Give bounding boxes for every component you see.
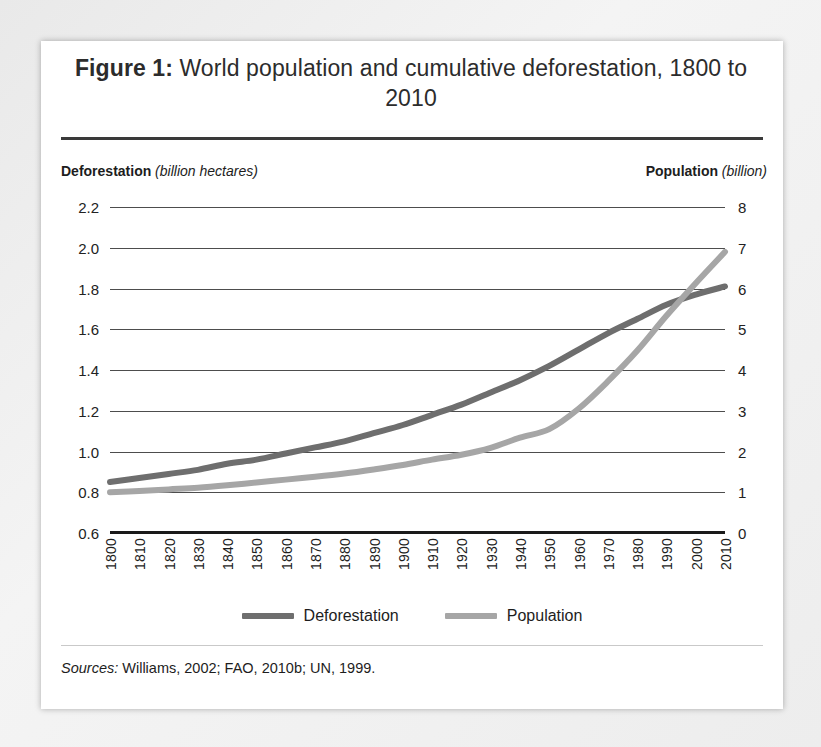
right-axis-tick-label: 2 xyxy=(738,445,746,460)
x-axis-tick-label: 1800 xyxy=(103,538,117,570)
right-axis-tick-label: 8 xyxy=(738,200,746,215)
series-line-deforestation xyxy=(110,286,725,482)
x-axis-tick-label: 1990 xyxy=(659,538,673,570)
x-axis-tick-label: 1970 xyxy=(601,538,615,570)
x-axis-tick-label: 2010 xyxy=(718,538,732,570)
right-axis-tick-label: 0 xyxy=(738,526,746,541)
x-axis-ticks: 1800181018201830184018501860187018801890… xyxy=(110,538,725,600)
figure-card: Figure 1: World population and cumulativ… xyxy=(41,41,783,709)
x-axis-tick-label: 1920 xyxy=(454,538,468,570)
left-axis-tick-label: 0.6 xyxy=(78,526,99,541)
left-axis-tick-label: 1.2 xyxy=(78,404,99,419)
x-axis-tick-label: 1900 xyxy=(396,538,410,570)
x-axis-tick-label: 1890 xyxy=(367,538,381,570)
legend-item[interactable]: Population xyxy=(445,607,583,625)
source-text: Williams, 2002; FAO, 2010b; UN, 1999. xyxy=(118,660,375,676)
left-axis-tick-label: 2.0 xyxy=(78,241,99,256)
legend-label: Population xyxy=(507,607,583,625)
figure-page: Figure 1: World population and cumulativ… xyxy=(0,0,821,747)
series-line-population xyxy=(110,252,725,492)
series-plot xyxy=(110,207,725,533)
right-axis-tick-label: 7 xyxy=(738,241,746,256)
x-axis-tick-label: 1930 xyxy=(484,538,498,570)
x-axis-tick-label: 2000 xyxy=(689,538,703,570)
source-note: Sources: Williams, 2002; FAO, 2010b; UN,… xyxy=(61,660,375,676)
left-axis-tick-label: 1.4 xyxy=(78,363,99,378)
source-divider xyxy=(61,645,763,646)
x-axis-tick-label: 1830 xyxy=(191,538,205,570)
x-axis-tick-label: 1950 xyxy=(542,538,556,570)
x-axis-tick-label: 1880 xyxy=(337,538,351,570)
left-axis-tick-label: 0.8 xyxy=(78,485,99,500)
left-axis-tick-label: 1.0 xyxy=(78,445,99,460)
x-axis-tick-label: 1820 xyxy=(162,538,176,570)
x-axis-tick-label: 1960 xyxy=(572,538,586,570)
legend-swatch-icon xyxy=(445,613,497,619)
x-axis-tick-label: 1860 xyxy=(279,538,293,570)
figure-card-inner: Figure 1: World population and cumulativ… xyxy=(41,41,783,709)
legend-item[interactable]: Deforestation xyxy=(242,607,399,625)
right-axis-tick-label: 6 xyxy=(738,282,746,297)
right-axis-tick-label: 1 xyxy=(738,485,746,500)
left-axis-tick-label: 1.8 xyxy=(78,282,99,297)
plot-wrapper: 0.60.81.01.21.41.61.82.02.2 012345678 18… xyxy=(41,41,783,709)
plot-area: 0.60.81.01.21.41.61.82.02.2 012345678 xyxy=(110,207,725,533)
x-axis-tick-label: 1850 xyxy=(249,538,263,570)
right-axis-tick-label: 5 xyxy=(738,322,746,337)
source-label: Sources: xyxy=(61,660,118,676)
x-axis-tick-label: 1810 xyxy=(132,538,146,570)
left-axis-tick-label: 2.2 xyxy=(78,200,99,215)
right-axis-tick-label: 3 xyxy=(738,404,746,419)
x-axis-tick-label: 1940 xyxy=(513,538,527,570)
x-axis-tick-label: 1840 xyxy=(220,538,234,570)
x-axis-tick-label: 1910 xyxy=(425,538,439,570)
legend-swatch-icon xyxy=(242,613,294,619)
right-axis-tick-label: 4 xyxy=(738,363,746,378)
legend-label: Deforestation xyxy=(304,607,399,625)
x-axis-tick-label: 1980 xyxy=(630,538,644,570)
x-axis-tick-label: 1870 xyxy=(308,538,322,570)
chart-legend: DeforestationPopulation xyxy=(41,607,783,625)
left-axis-tick-label: 1.6 xyxy=(78,322,99,337)
